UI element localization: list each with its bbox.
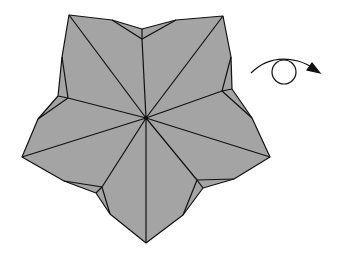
center-point [144, 116, 148, 120]
origami-diagram [0, 0, 337, 254]
rotation-arrow-icon [251, 59, 320, 84]
